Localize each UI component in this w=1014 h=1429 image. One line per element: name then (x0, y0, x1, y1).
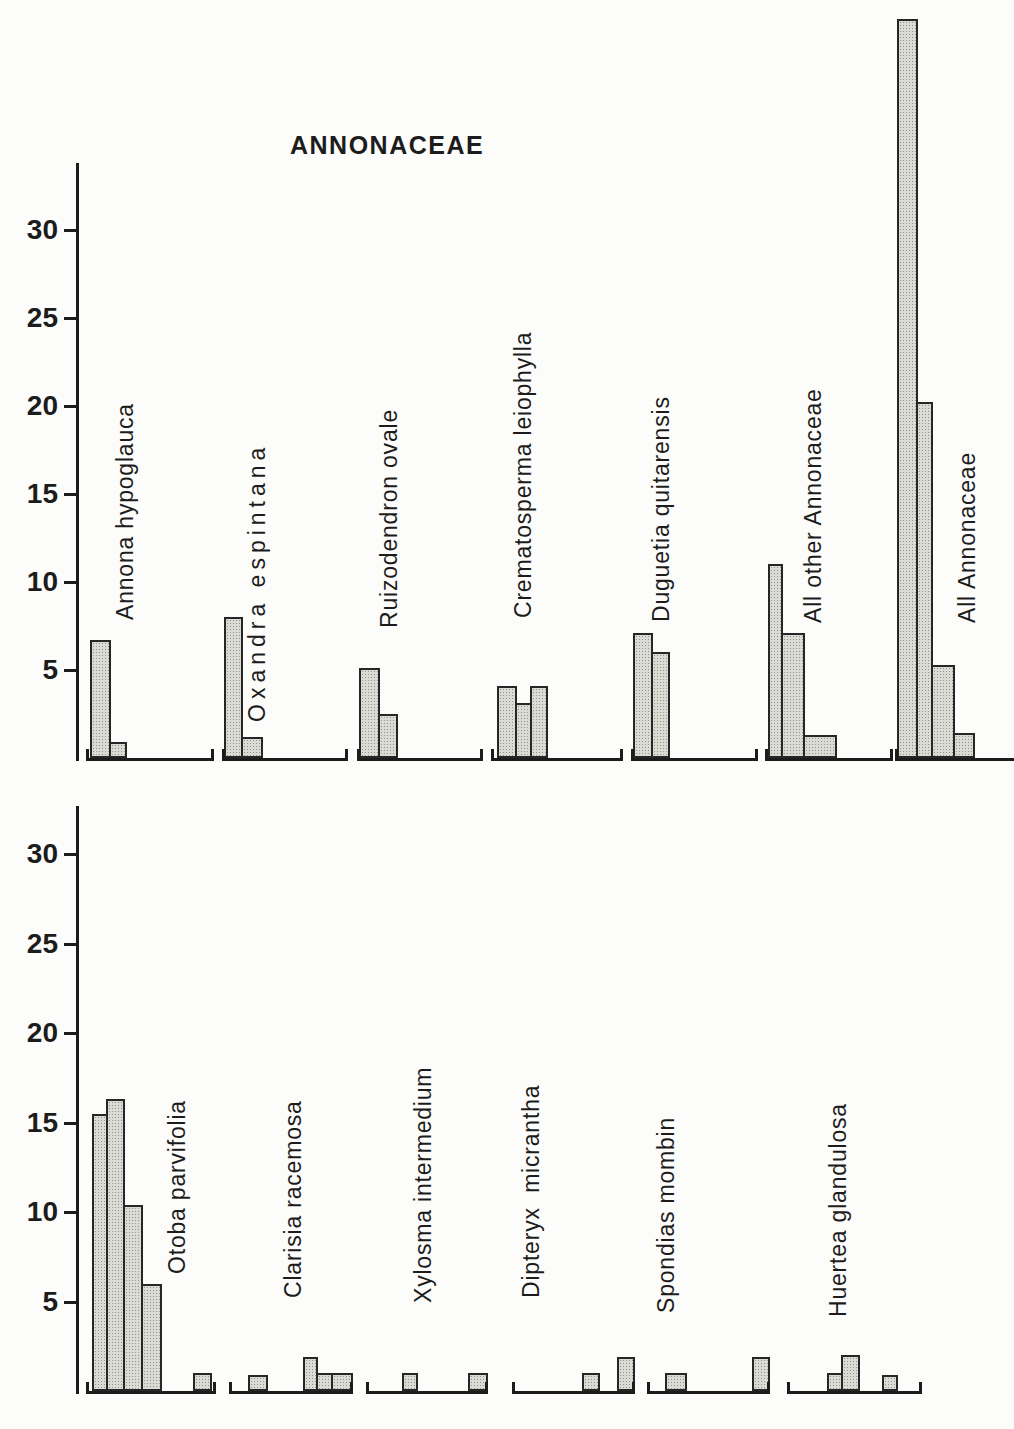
y-axis-tick-label: 25 (12, 302, 58, 334)
baseline-end-tick (350, 1382, 353, 1391)
baseline-end-tick (366, 1382, 369, 1391)
histogram-bar (665, 1373, 687, 1391)
x-baseline (787, 1391, 922, 1394)
species-label: Oxandra espintana (244, 443, 270, 722)
histogram-bar (378, 714, 398, 758)
baseline-end-tick (491, 749, 494, 758)
y-axis-tick (64, 317, 76, 320)
y-axis-tick-label: 10 (12, 566, 58, 598)
histogram-bar (248, 1375, 268, 1391)
baseline-end-tick (755, 749, 758, 758)
baseline-end-tick (895, 749, 898, 758)
y-axis-tick-label: 10 (12, 1196, 58, 1228)
x-baseline (512, 1391, 635, 1394)
baseline-end-tick (213, 1382, 216, 1391)
baseline-end-tick (345, 749, 348, 758)
species-label: Otoba parvifolia (164, 1100, 190, 1274)
y-axis-tick (64, 1211, 76, 1214)
y-axis-tick (64, 1301, 76, 1304)
species-label: Dipteryx micrantha (518, 1085, 544, 1298)
x-baseline (647, 1391, 770, 1394)
baseline-end-tick (767, 1382, 770, 1391)
baseline-end-tick (86, 1382, 89, 1391)
y-axis-tick-label: 30 (12, 214, 58, 246)
x-baseline (366, 1391, 488, 1394)
baseline-end-tick (357, 749, 360, 758)
histogram-bar (109, 742, 127, 758)
baseline-end-tick (222, 749, 225, 758)
x-baseline (229, 1391, 353, 1394)
x-baseline (86, 758, 214, 761)
histogram-bar (651, 652, 670, 758)
x-baseline (765, 758, 893, 761)
baseline-end-tick (765, 749, 768, 758)
histogram-figure: ANNONACEAE 51015202530Annona hypoglaucaO… (0, 0, 1014, 1429)
histogram-bar (803, 735, 837, 758)
x-baseline (86, 1391, 216, 1394)
baseline-end-tick (647, 1382, 650, 1391)
baseline-end-tick (620, 749, 623, 758)
species-label: Crematosperma leiophylla (510, 332, 536, 618)
y-axis-tick (64, 669, 76, 672)
baseline-end-tick (512, 1382, 515, 1391)
histogram-bar (141, 1284, 162, 1391)
histogram-bar (781, 633, 805, 758)
histogram-bar (402, 1373, 418, 1391)
histogram-bar (582, 1373, 600, 1391)
y-axis-tick (64, 229, 76, 232)
y-axis-tick-label: 15 (12, 478, 58, 510)
y-axis-tick (64, 493, 76, 496)
y-axis-tick-label: 20 (12, 390, 58, 422)
baseline-end-tick (211, 749, 214, 758)
histogram-bar (931, 665, 955, 758)
y-axis-tick-label: 20 (12, 1017, 58, 1049)
baseline-end-tick (919, 1382, 922, 1391)
species-label: Clarisia racemosa (280, 1100, 306, 1298)
histogram-bar (90, 640, 111, 758)
x-baseline (222, 758, 348, 761)
baseline-end-tick (787, 1382, 790, 1391)
baseline-end-tick (480, 749, 483, 758)
baseline-end-tick (86, 749, 89, 758)
upper-y-axis-line (76, 163, 79, 761)
species-label: Duguetia quitarensis (648, 396, 674, 622)
species-label: All other Annonaceae (800, 388, 826, 623)
x-baseline (357, 758, 483, 761)
histogram-bar (953, 733, 975, 758)
y-axis-tick-label: 15 (12, 1107, 58, 1139)
histogram-bar (193, 1373, 212, 1391)
histogram-bar (897, 19, 918, 758)
lower-y-axis-line (76, 806, 79, 1394)
x-baseline (491, 758, 623, 761)
histogram-bar (841, 1355, 860, 1391)
histogram-bar (497, 686, 517, 758)
y-axis-tick-label: 25 (12, 928, 58, 960)
y-axis-tick (64, 1122, 76, 1125)
species-label: Spondias mombin (653, 1117, 679, 1313)
x-baseline (631, 758, 758, 761)
species-label: Annona hypoglauca (112, 403, 138, 620)
species-label: Huertea glandulosa (825, 1103, 851, 1317)
y-axis-tick (64, 581, 76, 584)
baseline-end-tick (631, 749, 634, 758)
baseline-end-tick (485, 1382, 488, 1391)
histogram-bar (530, 686, 548, 758)
y-axis-tick-label: 30 (12, 838, 58, 870)
histogram-bar (123, 1205, 143, 1391)
y-axis-tick-label: 5 (12, 654, 58, 686)
baseline-end-tick (229, 1382, 232, 1391)
y-axis-tick (64, 405, 76, 408)
baseline-end-tick (632, 1382, 635, 1391)
y-axis-tick (64, 943, 76, 946)
histogram-bar (882, 1375, 898, 1391)
histogram-bar (633, 633, 653, 758)
species-label: Ruizodendron ovale (376, 409, 402, 628)
baseline-end-tick (890, 749, 893, 758)
histogram-bar (241, 737, 263, 758)
y-axis-tick-label: 5 (12, 1286, 58, 1318)
figure-title: ANNONACEAE (290, 131, 470, 160)
x-baseline (895, 758, 1014, 761)
histogram-bar (359, 668, 380, 758)
y-axis-tick (64, 853, 76, 856)
y-axis-tick (64, 1032, 76, 1035)
